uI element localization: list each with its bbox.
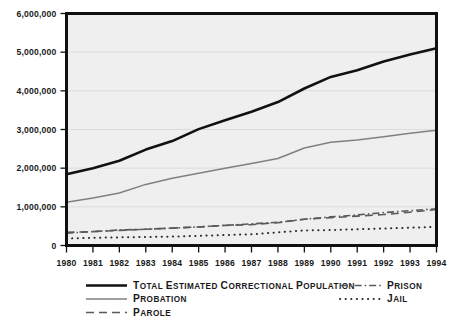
chart-figure: 01,000,0002,000,0003,000,0004,000,0005,0…: [0, 0, 449, 328]
legend-label-probation: PROBATION: [133, 293, 187, 304]
x-axis-tick-label: 1980: [57, 258, 77, 268]
legend-label-parole: PAROLE: [133, 307, 171, 318]
x-axis-tick-label: 1993: [400, 258, 420, 268]
x-axis-tick-label: 1990: [321, 258, 341, 268]
x-axis-tick-label: 1988: [268, 258, 288, 268]
x-axis-tick-label: 1982: [109, 258, 129, 268]
x-axis-tick-labels: 1980198119821983198419851986198719881989…: [57, 258, 447, 268]
x-axis-tick-label: 1986: [215, 258, 235, 268]
correctional-population-chart: 01,000,0002,000,0003,000,0004,000,0005,0…: [0, 0, 449, 328]
y-axis-tick-label: 1,000,000: [16, 202, 56, 212]
y-axis-tick-label: 4,000,000: [16, 86, 56, 96]
legend-label-jail: JAIL: [387, 293, 408, 304]
x-axis-tick-label: 1984: [162, 258, 182, 268]
x-axis-tick-label: 1987: [242, 258, 262, 268]
legend-label-prison: PRISON: [387, 280, 422, 291]
x-axis-tick-label: 1981: [83, 258, 103, 268]
y-axis-tick-label: 5,000,000: [16, 47, 56, 57]
y-axis-tick-label: 0: [52, 241, 57, 251]
x-axis-tick-label: 1989: [294, 258, 314, 268]
x-axis-tick-label: 1985: [189, 258, 209, 268]
y-axis-tick-label: 2,000,000: [16, 163, 56, 173]
y-axis-tick-label: 6,000,000: [16, 9, 56, 19]
legend-label-total: TOTAL ESTIMATED CORRECTIONAL POPULATION: [133, 280, 355, 291]
x-axis-tick-label: 1983: [136, 258, 156, 268]
y-axis-tick-label: 3,000,000: [16, 125, 56, 135]
x-axis-tick-label: 1994: [427, 258, 447, 268]
x-axis-tick-label: 1992: [374, 258, 394, 268]
x-axis-tick-label: 1991: [347, 258, 367, 268]
